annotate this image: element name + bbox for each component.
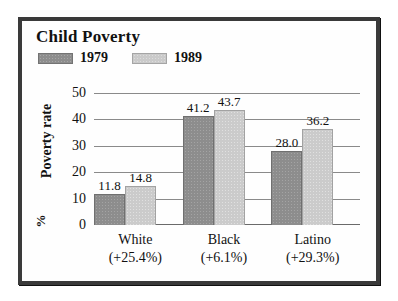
y-axis-tick-label: 10 [72,191,86,207]
y-axis-tick-label: 40 [72,111,86,127]
chart-legend: 1979 1989 [38,50,202,66]
category-change: (+29.3%) [265,249,360,267]
bar-groups: 11.814.841.243.728.036.2 [94,93,360,225]
bar-value-label: 14.8 [129,170,152,186]
bar-latino-1989[interactable]: 36.2 [302,129,333,225]
bar-slot: 28.0 [271,93,302,225]
bar-black-1989[interactable]: 43.7 [214,110,245,225]
category-name: White [88,231,183,249]
bar-slot: 11.8 [94,93,125,225]
x-axis-label-latino: Latino(+29.3%) [265,231,360,267]
bar-group: 41.243.7 [183,93,272,225]
legend-swatch-1979-icon [38,53,73,64]
bar-white-1989[interactable]: 14.8 [125,186,156,225]
bar-value-label: 43.7 [218,94,241,110]
bar-latino-1979[interactable]: 28.0 [271,151,302,225]
legend-label-1989: 1989 [174,50,202,66]
category-name: Latino [265,231,360,249]
legend-item-1979: 1979 [38,50,108,66]
y-axis-tick-label: 30 [72,138,86,154]
category-change: (+6.1%) [177,249,272,267]
legend-item-1989: 1989 [132,50,202,66]
y-axis-tick-label: 50 [72,85,86,101]
bar-value-label: 41.2 [187,100,210,116]
bar-slot: 14.8 [125,93,156,225]
bar-value-label: 11.8 [98,178,120,194]
category-name: Black [177,231,272,249]
x-axis-label-black: Black(+6.1%) [177,231,272,267]
y-axis-tick-label: 0 [79,217,86,233]
bar-slot: 43.7 [214,93,245,225]
bar-slot: 36.2 [302,93,333,225]
bar-slot: 41.2 [183,93,214,225]
x-axis-category-labels: White(+25.4%)Black(+6.1%)Latino(+29.3%) [94,231,360,267]
y-axis-tick-label: 20 [72,164,86,180]
y-axis-title: Poverty rate [39,86,55,196]
legend-label-1979: 1979 [80,50,108,66]
category-change: (+25.4%) [88,249,183,267]
bar-group: 11.814.8 [94,93,183,225]
y-axis-unit-label: % [33,215,49,228]
bar-black-1979[interactable]: 41.2 [183,116,214,225]
bar-value-label: 28.0 [275,135,298,151]
chart-canvas: Child Poverty 1979 1989 Poverty rate % 5… [22,21,376,281]
plot-area: 50403020100 11.814.841.243.728.036.2 [94,93,360,225]
bar-white-1979[interactable]: 11.8 [94,194,125,225]
x-axis-label-white: White(+25.4%) [88,231,183,267]
bar-value-label: 36.2 [306,113,329,129]
chart-title: Child Poverty [36,27,140,47]
chart-frame: Child Poverty 1979 1989 Poverty rate % 5… [18,17,380,285]
bar-group: 28.036.2 [271,93,360,225]
legend-swatch-1989-icon [132,53,167,64]
